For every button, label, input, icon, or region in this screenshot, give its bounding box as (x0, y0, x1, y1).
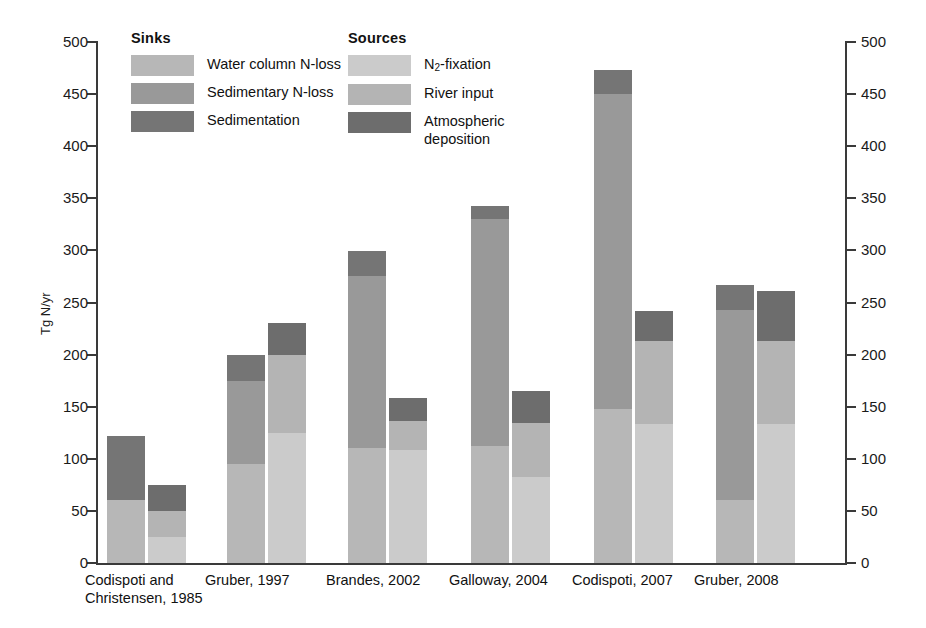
bar-segment (594, 409, 632, 563)
bar-segment (716, 500, 754, 563)
y-tick-label-left-250: 250 (40, 295, 88, 310)
bar-segment (348, 251, 386, 276)
y-tick-right-450 (847, 93, 856, 95)
legend-sinks: Sinks Water column N-loss Sedimentary N-… (131, 30, 341, 139)
bar-segment (716, 285, 754, 310)
y-tick-left-300 (87, 249, 96, 251)
legend-item-sedimentary-n-loss: Sedimentary N-loss (131, 83, 341, 104)
bar-segment (389, 398, 427, 421)
bar-segment (471, 446, 509, 563)
y-tick-left-50 (87, 510, 96, 512)
y-tick-label-right-400: 400 (861, 138, 886, 153)
y-tick-label-left-300: 300 (40, 242, 88, 257)
legend-label-sedimentation: Sedimentation (207, 111, 300, 129)
y-tick-left-350 (87, 197, 96, 199)
y-tick-label-left-0: 0 (40, 555, 88, 570)
bar-segment (594, 70, 632, 94)
bar-segment (227, 381, 265, 464)
y-tick-right-0 (847, 562, 856, 564)
bar-segment (471, 206, 509, 220)
legend-sources: Sources N2-fixation River input Atmosphe… (348, 30, 505, 155)
bar-segment (348, 448, 386, 563)
bar-sources-group-0 (148, 485, 186, 563)
bar-segment (227, 355, 265, 381)
y-tick-left-100 (87, 458, 96, 460)
bar-sinks-group-2 (348, 251, 386, 563)
y-tick-label-right-0: 0 (861, 555, 869, 570)
y-tick-left-0 (87, 562, 96, 564)
y-tick-label-right-200: 200 (861, 347, 886, 362)
category-label-5: Gruber, 2008 (694, 571, 844, 589)
bar-segment (227, 464, 265, 563)
legend-swatch-atmospheric-deposition (348, 112, 411, 133)
y-tick-right-50 (847, 510, 856, 512)
legend-item-atmospheric-deposition: Atmospheric deposition (348, 112, 505, 148)
y-tick-label-left-150: 150 (40, 399, 88, 414)
y-tick-right-350 (847, 197, 856, 199)
legend-label-n2-fixation: N2-fixation (424, 55, 491, 77)
legend-sinks-title: Sinks (131, 30, 341, 46)
bar-sinks-group-0 (107, 436, 145, 563)
y-tick-right-250 (847, 302, 856, 304)
bar-sources-group-3 (512, 391, 550, 563)
y-tick-label-left-350: 350 (40, 190, 88, 205)
y-tick-left-500 (87, 41, 96, 43)
y-tick-label-left-500: 500 (40, 34, 88, 49)
bar-segment (148, 537, 186, 563)
y-tick-right-200 (847, 354, 856, 356)
y-tick-right-400 (847, 145, 856, 147)
bar-sources-group-5 (757, 291, 795, 563)
y-tick-right-100 (847, 458, 856, 460)
y-tick-label-left-450: 450 (40, 86, 88, 101)
bar-segment (635, 311, 673, 341)
y-tick-label-left-200: 200 (40, 347, 88, 362)
bar-sinks-group-1 (227, 355, 265, 563)
bar-segment (716, 310, 754, 501)
y-tick-label-right-150: 150 (861, 399, 886, 414)
legend-swatch-sedimentary-n-loss (131, 83, 194, 104)
legend-item-sedimentation: Sedimentation (131, 111, 341, 132)
y-tick-label-right-50: 50 (861, 503, 878, 518)
legend-sources-title: Sources (348, 30, 505, 46)
bar-segment (757, 424, 795, 563)
bar-segment (635, 424, 673, 563)
y-axis-left-line (96, 41, 98, 564)
y-tick-left-200 (87, 354, 96, 356)
y-tick-label-left-100: 100 (40, 451, 88, 466)
legend-swatch-n2-fixation (348, 55, 411, 76)
y-tick-right-150 (847, 406, 856, 408)
y-tick-left-450 (87, 93, 96, 95)
legend-label-river-input: River input (424, 84, 493, 102)
y-tick-left-150 (87, 406, 96, 408)
y-tick-label-right-450: 450 (861, 86, 886, 101)
legend-label-sedimentary-n-loss: Sedimentary N-loss (207, 83, 334, 101)
bar-sinks-group-3 (471, 206, 509, 563)
bar-segment (594, 94, 632, 409)
chart-root: Tg N/yr 500450400350300250200150100500 5… (0, 0, 926, 628)
y-tick-label-right-100: 100 (861, 451, 886, 466)
bar-segment (635, 341, 673, 424)
bar-segment (148, 511, 186, 537)
bar-segment (512, 391, 550, 423)
bar-segment (389, 450, 427, 563)
bar-segment (268, 433, 306, 563)
legend-swatch-river-input (348, 84, 411, 105)
y-tick-label-right-500: 500 (861, 34, 886, 49)
y-tick-right-300 (847, 249, 856, 251)
bar-segment (757, 341, 795, 424)
bar-segment (268, 323, 306, 354)
bar-segment (268, 355, 306, 433)
y-tick-right-500 (847, 41, 856, 43)
bar-sources-group-4 (635, 311, 673, 563)
bar-segment (389, 421, 427, 450)
legend-item-water-column-n-loss: Water column N-loss (131, 55, 341, 76)
y-tick-label-left-50: 50 (40, 503, 88, 518)
y-tick-left-250 (87, 302, 96, 304)
legend-swatch-sedimentation (131, 111, 194, 132)
bar-segment (107, 500, 145, 563)
bar-sinks-group-4 (594, 70, 632, 563)
legend-label-atmospheric-deposition: Atmospheric deposition (424, 112, 505, 148)
bar-segment (757, 291, 795, 341)
bar-segment (148, 485, 186, 511)
bar-segment (107, 436, 145, 501)
